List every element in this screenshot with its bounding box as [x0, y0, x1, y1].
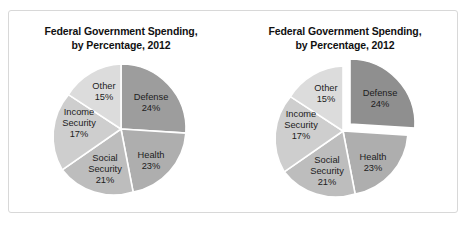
chart-panel-left: Federal Government Spending, by Percenta…	[9, 11, 233, 212]
pie-label-health-pct-left: 23%	[142, 161, 161, 171]
figure-frame: Federal Government Spending, by Percenta…	[8, 10, 458, 213]
pie-label-other-name-right: Other	[314, 83, 337, 93]
pie-label-health-pct-right: 23%	[364, 163, 383, 173]
pie-label-social-security-pct-left: 21%	[96, 175, 115, 185]
chart-title-line2-right: by Percentage, 2012	[295, 39, 394, 51]
pie-label-income-security-line1-left: Income	[64, 107, 95, 117]
chart-title-right: Federal Government Spending, by Percenta…	[233, 25, 457, 52]
pie-label-defense-name-left: Defense	[134, 92, 169, 102]
chart-title-left: Federal Government Spending, by Percenta…	[9, 25, 233, 52]
pie-label-income-security-line1-right: Income	[286, 109, 317, 119]
pie-label-social-security-line2-right: Security	[310, 166, 344, 176]
pie-label-social-security-pct-right: 21%	[318, 177, 337, 187]
pie-label-income-security-line2-left: Security	[62, 118, 96, 128]
chart-title-line1-right: Federal Government Spending,	[269, 25, 422, 37]
pie-label-health-name-left: Health	[138, 150, 165, 160]
pie-container-right: Defense 24% Health 23% Social Security 2…	[233, 55, 457, 207]
chart-title-line2-left: by Percentage, 2012	[71, 39, 170, 51]
pie-label-defense-pct-right: 24%	[371, 99, 390, 109]
pie-label-social-security-line2-left: Security	[88, 164, 122, 174]
pie-label-defense-name-right: Defense	[363, 88, 398, 98]
pie-chart-left: Defense 24% Health 23% Social Security 2…	[46, 55, 196, 203]
pie-label-social-security-line1-right: Social	[314, 155, 339, 165]
pie-label-income-security-line2-right: Security	[284, 120, 318, 130]
pie-label-social-security-line1-left: Social	[92, 153, 117, 163]
pie-label-defense-pct-left: 24%	[142, 103, 161, 113]
pie-label-other-name-left: Other	[92, 81, 115, 91]
pie-container-left: Defense 24% Health 23% Social Security 2…	[9, 55, 233, 207]
pie-label-income-security-pct-left: 17%	[70, 129, 89, 139]
chart-title-line1-left: Federal Government Spending,	[45, 25, 198, 37]
pie-label-health-name-right: Health	[360, 152, 387, 162]
chart-panel-right: Federal Government Spending, by Percenta…	[233, 11, 457, 212]
pie-label-other-pct-right: 15%	[317, 94, 336, 104]
pie-label-other-pct-left: 15%	[95, 92, 114, 102]
pie-chart-right: Defense 24% Health 23% Social Security 2…	[270, 55, 420, 203]
pie-label-income-security-pct-right: 17%	[292, 131, 311, 141]
